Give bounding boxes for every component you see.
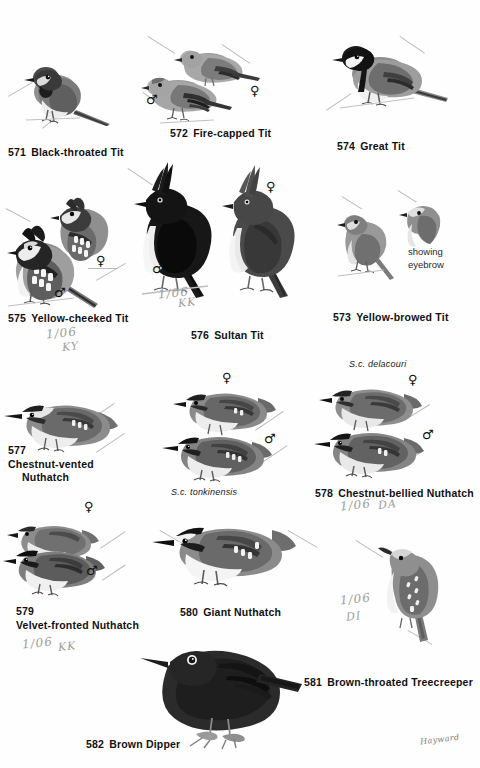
caption-name: Brown Dipper [109,738,180,750]
pencil-annotation: DA [377,497,397,512]
caption-number: 572 [170,127,188,139]
caption-575: 575Yellow-cheeked Tit [8,312,128,325]
caption-name: Yellow-browed Tit [356,311,448,323]
bird-illustration-brown-dipper [110,622,310,752]
caption-name: Black-throated Tit [31,146,124,158]
sex-symbol-male-579: ♂ [86,564,98,577]
caption-number: 573 [333,311,351,323]
bird-illustration-tonkinensis-male [160,424,276,482]
caption-name: Yellow-cheeked Tit [31,312,128,324]
field-guide-plate: 571Black-throated Tit [0,0,480,768]
caption-573: 573Yellow-browed Tit [333,311,449,324]
sex-symbol-male-572: ♂ [146,93,158,106]
sex-symbol-female-delacouri: ♀ [408,373,418,386]
pencil-annotation: 1/06 [339,590,371,607]
bird-illustration-giant-nuthatch [150,512,300,600]
bird-illustration-black-throated-tit [18,48,118,128]
sex-symbol-female-572: ♀ [250,84,260,97]
pencil-annotation: 1/06 [339,496,371,513]
sex-symbol-female-tonkinensis: ♀ [222,371,232,384]
caption-number: 575 [8,312,26,324]
caption-name: Great Tit [360,140,405,152]
sex-symbol-male-tonkinensis: ♂ [264,432,276,445]
caption-number: 574 [337,140,355,152]
sex-symbol-female-579: ♀ [84,500,94,513]
pencil-annotation: 1/06 [21,634,53,651]
sublabel-delacouri: S.c. delacouri [349,359,406,369]
sex-symbol-female-575: ♀ [96,254,106,267]
sex-symbol-male-delacouri: ♂ [422,428,434,441]
sex-symbol-female-576: ♀ [266,180,276,193]
caption-number: 577 [8,444,26,456]
bird-illustration-sultan-tit-female [212,164,312,300]
caption-name: Fire-capped Tit [193,127,271,139]
caption-582: 582Brown Dipper [86,738,180,751]
bird-illustration-yellow-browed-tit-head-detail [398,196,442,252]
caption-number: 571 [8,146,26,158]
sex-symbol-male-576: ♂ [152,262,164,275]
bird-illustration-brown-throated-treecreeper [370,536,460,646]
pencil-annotation: KK [177,295,197,310]
caption-name: Chestnut-vented [8,458,94,470]
bird-illustration-great-tit [328,36,452,112]
bird-illustration-yellow-browed-tit [334,198,404,284]
caption-number: 578 [315,487,333,499]
pencil-annotation: DI [345,609,361,624]
sublabel-tonkinensis: S.c. tonkinensis [171,487,237,497]
caption-571: 571Black-throated Tit [8,146,124,159]
caption-name: Giant Nuthatch [203,606,281,618]
caption-number: 582 [86,738,104,750]
annotation-showing-eyebrow: showing eyebrow [408,245,444,271]
caption-name: Brown-throated Treecreeper [327,676,473,688]
pencil-annotation: KY [61,339,79,354]
caption-581: 581Brown-throated Treecreeper [304,676,473,689]
caption-572: 572Fire-capped Tit [170,127,271,140]
caption-name: Sultan Tit [214,329,264,341]
bird-illustration-delacouri-male [312,420,428,478]
pencil-annotation: KK [57,639,77,654]
caption-number: 579 [16,605,34,617]
leader-line [147,36,175,54]
caption-577: 577 Chestnut-vented Nuthatch [8,444,118,485]
sex-symbol-male-575: ♂ [54,286,66,299]
caption-name-line2: Nuthatch [22,471,69,485]
caption-576: 576Sultan Tit [191,329,264,342]
artist-signature: Hayward [420,733,460,747]
caption-580: 580Giant Nuthatch [180,606,281,619]
caption-574: 574Great Tit [337,140,405,153]
caption-number: 580 [180,606,198,618]
caption-number: 576 [191,329,209,341]
